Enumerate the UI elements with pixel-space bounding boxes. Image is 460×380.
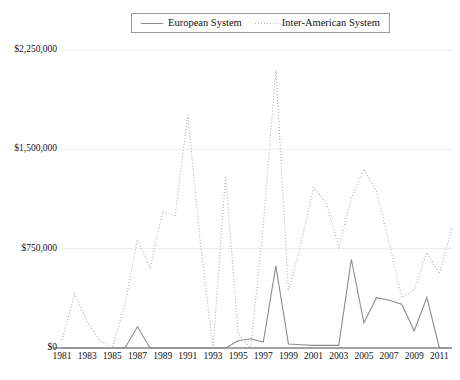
x-tick-label: 1999 <box>279 352 298 362</box>
x-tick-label: 1981 <box>53 352 72 362</box>
x-tick-label: 1985 <box>103 352 122 362</box>
plot-area <box>0 0 460 380</box>
x-tick-label: 1993 <box>203 352 222 362</box>
x-tick-label: 1989 <box>153 352 172 362</box>
x-tick-label: 2003 <box>329 352 348 362</box>
x-tick-label: 1987 <box>128 352 147 362</box>
x-tick-label: 1995 <box>229 352 248 362</box>
x-tick-label: 1983 <box>78 352 97 362</box>
x-axis: 1981198319851987198919911993199519971999… <box>0 352 460 372</box>
series-line-inter-american-system <box>62 70 452 348</box>
x-tick-label: 2007 <box>380 352 399 362</box>
chart-container: European System Inter-American System $0… <box>0 0 460 380</box>
x-tick-label: 2009 <box>405 352 424 362</box>
x-tick-label: 2011 <box>430 352 449 362</box>
series-line-european-system <box>62 259 452 348</box>
x-tick-label: 1997 <box>254 352 273 362</box>
x-tick-label: 1991 <box>178 352 197 362</box>
x-tick-label: 2001 <box>304 352 323 362</box>
x-tick-label: 2005 <box>354 352 373 362</box>
